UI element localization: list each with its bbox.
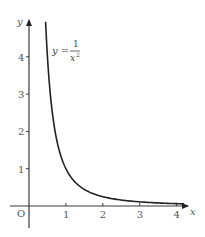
y-tick-label: 1 [18,164,24,175]
y-axis-label: y [16,16,23,27]
y-tick-label: 4 [18,52,24,63]
y-ticks: 1234 [18,52,29,175]
equation-exponent: 2 [76,51,80,58]
y-tick-label: 2 [18,126,24,137]
x-tick-label: 3 [137,209,143,220]
equation-lhs: y = [51,45,69,56]
y-tick-label: 3 [18,89,24,100]
x-tick-label: 1 [63,209,69,220]
origin-label: O [17,208,25,219]
x-tick-label: 2 [100,209,106,220]
x-tick-label: 4 [174,209,180,220]
x-axis-label: x [190,206,196,217]
equation-numerator: 1 [73,39,79,49]
equation-denominator: x [70,53,75,63]
function-graph: x y O 1234 1234 y = 1 x 2 [0,0,205,237]
equation-label: y = 1 x 2 [51,39,80,63]
